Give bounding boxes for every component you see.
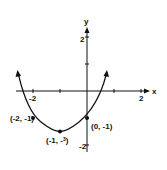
point-label-right: (0, -1) (91, 122, 113, 131)
curve-arrow-left-icon (16, 70, 22, 77)
point-label-vertex: (-1, -3) (46, 136, 69, 145)
y-axis-arrow-icon (85, 27, 90, 33)
tick-label-y-pos2: 2 (80, 35, 85, 44)
x-axis-arrow-icon (144, 89, 150, 94)
point-vertex (58, 130, 62, 134)
tick-label-x-neg2: -2 (29, 94, 37, 103)
tick-label-x-pos2: 2 (139, 94, 144, 103)
point-right (85, 116, 89, 120)
point-label-left: (-2, -1) (10, 114, 34, 123)
y-axis-label: y (84, 17, 89, 26)
curve-arrow-right-icon (104, 70, 110, 77)
x-axis-label: x (152, 87, 157, 96)
parabola-graph: x y -2 2 2 -2 (-2, -1) (0, -1) (-1, -3) (0, 0, 167, 170)
tick-label-y-neg2: -2 (79, 142, 87, 151)
